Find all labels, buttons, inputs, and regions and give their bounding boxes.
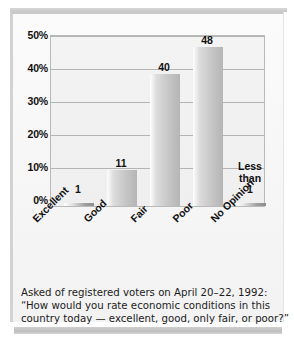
y-tick-label-10: 10% [2, 161, 48, 173]
chart-caption: Asked of registered voters on April 20–2… [21, 286, 273, 326]
y-tick-label-40: 40% [2, 62, 48, 74]
bar-value-good: 11 [96, 158, 146, 170]
bar-value-fair: 40 [139, 62, 189, 74]
y-axis: 50% 40% 30% 20% 10% 0% [0, 35, 48, 207]
caption-line-1: Asked of registered voters on April 20–2… [21, 286, 273, 299]
bar-excellent [64, 203, 94, 206]
gridline-50 [51, 36, 264, 37]
bar-fair [150, 74, 180, 206]
bar-good [107, 170, 137, 207]
bar-poor [193, 47, 223, 206]
bar-no-opinion [236, 203, 266, 206]
y-tick-label-30: 30% [2, 95, 48, 107]
chart-figure: 50% 40% 30% 20% 10% 0% 1 11 40 48 Less t… [0, 0, 294, 341]
caption-line-3: country today — excellent, good, only fa… [21, 312, 273, 325]
frame-bottom-bar [14, 327, 282, 334]
caption-line-2: “How would you rate economic conditions … [21, 299, 273, 312]
y-tick-label-20: 20% [2, 128, 48, 140]
y-tick-label-50: 50% [2, 29, 48, 41]
bar-value-poor: 48 [182, 35, 232, 47]
